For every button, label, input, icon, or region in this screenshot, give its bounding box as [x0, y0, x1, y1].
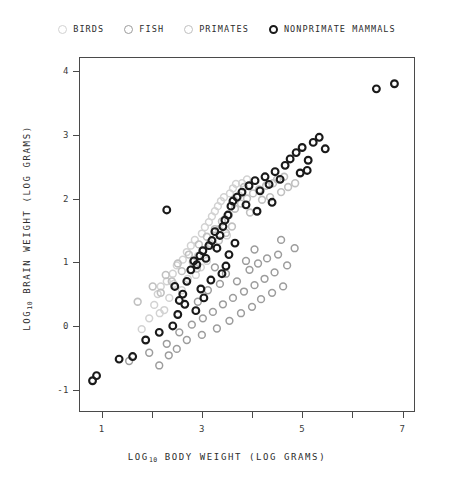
data-point	[138, 326, 145, 333]
data-point	[258, 296, 265, 303]
data-point	[149, 283, 156, 290]
data-point	[129, 353, 136, 360]
data-point	[183, 337, 190, 344]
x-tick-mark	[302, 412, 303, 418]
data-points-layer	[79, 57, 415, 412]
data-point	[197, 286, 204, 293]
data-point	[200, 295, 207, 302]
data-point	[269, 289, 276, 296]
y-tick-label: 0	[45, 322, 69, 331]
plot-area	[79, 57, 415, 412]
data-point	[169, 270, 176, 277]
scatter-plot-figure: BIRDS FISH PRIMATES NONPRIMATE MAMMALS 4…	[0, 0, 454, 493]
x-tick-mark	[403, 412, 404, 418]
data-point	[251, 246, 258, 253]
data-point	[293, 149, 300, 156]
data-point	[257, 187, 264, 194]
data-point	[297, 170, 304, 177]
data-point	[238, 310, 245, 317]
legend-marker-primates-icon	[184, 25, 193, 34]
data-point	[246, 266, 253, 273]
legend-marker-fish-icon	[124, 25, 133, 34]
data-point	[271, 269, 278, 276]
data-point	[226, 251, 233, 258]
data-point	[282, 162, 289, 169]
y-tick-mark	[73, 390, 79, 391]
data-point	[173, 346, 180, 353]
data-point	[247, 209, 254, 216]
x-tick-label: 5	[292, 425, 312, 434]
data-point	[93, 372, 100, 379]
legend-entry-fish[interactable]: FISH	[124, 25, 164, 34]
data-point	[275, 251, 282, 258]
data-point	[214, 325, 221, 332]
data-point	[234, 278, 241, 285]
x-axis-title: LOG10 BODY WEIGHT (LOG GRAMS)	[0, 452, 454, 464]
data-point	[243, 201, 250, 208]
legend-label-primates: PRIMATES	[199, 25, 249, 34]
data-point	[232, 240, 239, 247]
chart-legend: BIRDS FISH PRIMATES NONPRIMATE MAMMALS	[0, 18, 454, 40]
data-point	[163, 207, 170, 214]
legend-entry-birds[interactable]: BIRDS	[58, 25, 104, 34]
data-point	[217, 232, 224, 239]
x-tick-mark	[352, 412, 353, 418]
data-point	[181, 301, 188, 308]
data-point	[199, 247, 206, 254]
y-tick-mark	[73, 262, 79, 263]
data-point	[269, 199, 276, 206]
data-point	[251, 282, 258, 289]
data-point	[214, 245, 221, 252]
data-point	[304, 167, 311, 174]
data-point	[284, 262, 291, 269]
data-point	[255, 260, 262, 267]
y-tick-label: 3	[45, 130, 69, 139]
data-point	[210, 309, 217, 316]
data-point	[272, 168, 279, 175]
data-point	[310, 139, 317, 146]
y-axis-title: LOG10 BRAIN WEIGHT (LOG GRAMS)	[22, 108, 34, 348]
x-tick-label: 3	[192, 425, 212, 434]
data-point	[246, 182, 253, 189]
y-tick-mark	[73, 199, 79, 200]
data-point	[188, 321, 195, 328]
data-point	[116, 356, 123, 363]
data-point	[261, 275, 268, 282]
data-point	[217, 280, 224, 287]
data-point	[156, 362, 163, 369]
data-point	[199, 315, 206, 322]
data-point	[316, 134, 323, 141]
series-nonprimate-mammals	[89, 80, 398, 384]
data-point	[230, 295, 237, 302]
x-tick-mark	[102, 412, 103, 418]
data-point	[226, 317, 233, 324]
data-point	[146, 315, 153, 322]
data-point	[229, 223, 236, 230]
data-point	[299, 144, 306, 151]
data-point	[241, 288, 248, 295]
data-point	[225, 212, 232, 219]
legend-entry-nonprimate-mammals[interactable]: NONPRIMATE MAMMALS	[269, 25, 396, 34]
data-point	[239, 189, 246, 196]
legend-marker-nonprimate-mammals-icon	[269, 25, 278, 34]
data-point	[178, 268, 185, 275]
data-point	[292, 180, 299, 187]
data-point	[278, 237, 285, 244]
data-point	[285, 184, 292, 191]
data-point	[291, 245, 298, 252]
y-tick-label: 2	[45, 194, 69, 203]
x-tick-label: 7	[393, 425, 413, 434]
data-point	[287, 156, 294, 163]
data-point	[207, 277, 214, 284]
x-tick-mark	[152, 412, 153, 418]
data-point	[174, 311, 181, 318]
y-tick-mark	[73, 71, 79, 72]
legend-entry-primates[interactable]: PRIMATES	[184, 25, 249, 34]
data-point	[198, 331, 205, 338]
data-point	[391, 80, 398, 87]
data-point	[165, 352, 172, 359]
y-tick-label: -1	[45, 385, 69, 394]
x-tick-mark	[252, 412, 253, 418]
data-point	[166, 295, 173, 302]
data-point	[243, 258, 250, 265]
